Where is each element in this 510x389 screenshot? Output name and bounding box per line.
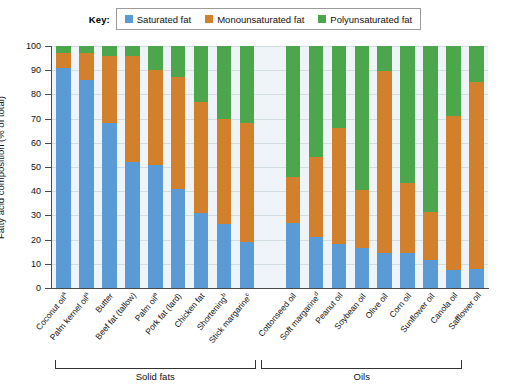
bar-segment bbox=[79, 80, 94, 288]
bar-segment bbox=[194, 46, 209, 102]
y-tick-mark bbox=[45, 215, 52, 216]
bar-segment bbox=[309, 46, 324, 157]
y-tick-mark bbox=[45, 70, 52, 71]
bar-stack bbox=[194, 46, 209, 288]
y-axis-label: Fatty acid composition (% of total) bbox=[0, 46, 8, 288]
legend-label: Polyunsaturated fat bbox=[330, 14, 412, 25]
bar-stack bbox=[125, 46, 140, 288]
bar-segment bbox=[148, 70, 163, 164]
bar-segment bbox=[148, 165, 163, 288]
bar-segment bbox=[377, 71, 392, 253]
bar-segment bbox=[240, 242, 255, 288]
y-tick-label: 0 bbox=[36, 283, 41, 293]
bar-segment bbox=[56, 68, 71, 288]
bar-segment bbox=[332, 128, 347, 244]
bar-segment bbox=[469, 269, 484, 288]
y-tick-mark bbox=[45, 191, 52, 192]
bar-segment bbox=[102, 56, 117, 124]
bar-segment bbox=[355, 190, 370, 248]
y-tick-label: 100 bbox=[26, 41, 41, 51]
bar-stack bbox=[423, 46, 438, 288]
bar-segment bbox=[79, 46, 94, 53]
bar-segment bbox=[148, 46, 163, 70]
bar-stack bbox=[446, 46, 461, 288]
bar-segment bbox=[79, 53, 94, 80]
group-label-solid-fats: Solid fats bbox=[55, 371, 256, 382]
bar-segment bbox=[309, 237, 324, 288]
y-tick-mark bbox=[45, 46, 52, 47]
bar-stack bbox=[286, 46, 301, 288]
y-tick-mark bbox=[45, 240, 52, 241]
bar-segment bbox=[332, 46, 347, 128]
bar-segment bbox=[125, 162, 140, 288]
bar-stack bbox=[240, 46, 255, 288]
bar-segment bbox=[446, 270, 461, 288]
bar-segment bbox=[171, 189, 186, 288]
bar-stack bbox=[102, 46, 117, 288]
bar-stack bbox=[400, 46, 415, 288]
bar-segment bbox=[217, 119, 232, 224]
y-tick-label: 90 bbox=[31, 65, 41, 75]
bar-stack bbox=[377, 46, 392, 288]
bar-stack bbox=[355, 46, 370, 288]
legend-label: Monounsaturated fat bbox=[217, 14, 304, 25]
bar-segment bbox=[400, 253, 415, 288]
legend-label: Saturated fat bbox=[137, 14, 191, 25]
y-tick-label: 70 bbox=[31, 114, 41, 124]
bar-segment bbox=[423, 260, 438, 288]
y-tick-mark bbox=[45, 264, 52, 265]
y-tick-label: 10 bbox=[31, 259, 41, 269]
legend-item-monounsaturated-fat: Monounsaturated fat bbox=[205, 14, 304, 25]
bar-segment bbox=[171, 77, 186, 188]
bar-segment bbox=[194, 102, 209, 213]
bar-segment bbox=[355, 248, 370, 288]
bar-segment bbox=[400, 183, 415, 253]
bar-stack bbox=[79, 46, 94, 288]
y-tick-label: 30 bbox=[31, 210, 41, 220]
bar-segment bbox=[446, 116, 461, 270]
group-bracket-oils bbox=[261, 360, 462, 369]
monounsaturated-fat-swatch-icon bbox=[205, 15, 213, 23]
bar-segment bbox=[194, 213, 209, 288]
bar-segment bbox=[240, 123, 255, 242]
legend: Key: Saturated fatMonounsaturated fatPol… bbox=[0, 8, 510, 30]
y-tick-mark bbox=[45, 288, 52, 289]
bar-stack bbox=[171, 46, 186, 288]
bar-segment bbox=[56, 46, 71, 53]
bar-stack bbox=[469, 46, 484, 288]
saturated-fat-swatch-icon bbox=[125, 15, 133, 23]
x-axis-line bbox=[51, 288, 489, 289]
y-tick-label: 20 bbox=[31, 235, 41, 245]
y-tick-mark bbox=[45, 119, 52, 120]
y-tick-label: 60 bbox=[31, 138, 41, 148]
legend-item-saturated-fat: Saturated fat bbox=[125, 14, 191, 25]
bar-stack bbox=[309, 46, 324, 288]
bar-stack bbox=[148, 46, 163, 288]
legend-key-label: Key: bbox=[89, 14, 110, 25]
bar-segment bbox=[469, 46, 484, 82]
group-bracket-solid-fats bbox=[55, 360, 256, 369]
bar-segment bbox=[125, 56, 140, 162]
bar-segment bbox=[286, 177, 301, 223]
bar-stack bbox=[56, 46, 71, 288]
bar-segment bbox=[125, 46, 140, 56]
y-tick-mark bbox=[45, 143, 52, 144]
bar-segment bbox=[56, 53, 71, 68]
bar-stack bbox=[217, 46, 232, 288]
bar-segment bbox=[423, 46, 438, 212]
plot-area bbox=[52, 46, 488, 288]
polyunsaturated-fat-swatch-icon bbox=[318, 15, 326, 23]
bar-segment bbox=[423, 212, 438, 260]
x-tick-label-text: Olive oil bbox=[363, 291, 390, 320]
y-tick-label: 80 bbox=[31, 89, 41, 99]
y-axis-label-text: Fatty acid composition (% of total) bbox=[0, 95, 7, 238]
group-label-oils: Oils bbox=[261, 371, 462, 382]
bar-stack bbox=[332, 46, 347, 288]
legend-item-polyunsaturated-fat: Polyunsaturated fat bbox=[318, 14, 412, 25]
bar-segment bbox=[286, 46, 301, 177]
y-tick-mark bbox=[45, 94, 52, 95]
y-tick-mark bbox=[45, 167, 52, 168]
bar-segment bbox=[377, 46, 392, 71]
bar-segment bbox=[355, 46, 370, 190]
bar-segment bbox=[377, 253, 392, 288]
